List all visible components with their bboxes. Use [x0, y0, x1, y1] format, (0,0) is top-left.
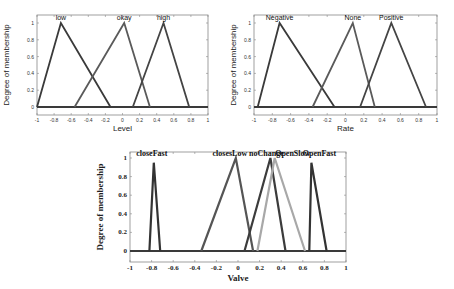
y-tick-label: 0.8 [27, 37, 34, 43]
x-tick-label: 0.4 [153, 117, 160, 123]
x-tick-label: 1 [436, 117, 439, 123]
mf-label: Positive [379, 14, 404, 21]
y-tick-label: 0.4 [118, 210, 127, 218]
y-tick-label: 0.8 [244, 37, 251, 43]
x-tick-label: 0.4 [379, 117, 386, 123]
y-tick-label: 0.4 [244, 70, 251, 76]
y-tick-label: 0.6 [244, 54, 251, 60]
x-tick-label: 0.2 [360, 117, 367, 123]
x-tick-label: -0.4 [189, 264, 201, 272]
x-tick-label: 0 [344, 117, 347, 123]
x-tick-label: 0.6 [170, 117, 177, 123]
mf-line-positive [360, 23, 426, 107]
x-tick-label: -0.2 [323, 117, 332, 123]
chart-rate: -1-0.8-0.6-0.4-0.200.20.40.60.8100.20.40… [229, 14, 439, 133]
x-tick-label: -0.6 [67, 117, 76, 123]
mf-label: okay [117, 14, 132, 22]
x-tick-label: 1 [207, 117, 210, 123]
mf-label: closeFast [136, 149, 167, 158]
chart-valve: -1-0.8-0.6-0.4-0.200.20.40.60.8100.20.40… [95, 149, 348, 283]
x-tick-label: -0.2 [211, 264, 223, 272]
y-tick-label: 0.8 [118, 173, 127, 181]
y-tick-label: 0.2 [27, 87, 34, 93]
y-tick-label: 1 [124, 154, 128, 162]
x-axis-label: Valve [227, 273, 248, 283]
x-tick-label: 1 [344, 264, 348, 272]
y-axis-label: Degree of membership [2, 24, 11, 106]
y-tick-label: 0.6 [27, 54, 34, 60]
x-tick-label: 0.8 [320, 264, 329, 272]
x-tick-label: 0.4 [277, 264, 286, 272]
x-tick-label: -0.2 [101, 117, 110, 123]
x-tick-label: -0.8 [268, 117, 277, 123]
x-tick-label: 0.8 [187, 117, 194, 123]
y-tick-label: 0 [248, 104, 251, 110]
x-tick-label: -0.8 [50, 117, 59, 123]
mf-label: closesLow [213, 149, 248, 158]
y-tick-label: 0.2 [118, 228, 127, 236]
y-tick-label: 0.4 [27, 70, 34, 76]
y-axis-label: Degree of membership [229, 24, 238, 106]
mf-line-closefast [149, 163, 160, 251]
x-tick-label: -1 [35, 117, 40, 123]
mf-label: low [56, 14, 67, 21]
mf-label: None [344, 14, 361, 21]
y-axis-label: Degree of membership [95, 164, 105, 251]
x-tick-label: -0.4 [84, 117, 93, 123]
mf-line-openslow [257, 158, 305, 251]
x-tick-label: 0 [121, 117, 124, 123]
x-tick-label: 0.6 [298, 264, 307, 272]
mf-label: OpenFast [303, 149, 337, 158]
y-tick-label: 1 [31, 20, 34, 26]
mf-line-high [133, 23, 189, 107]
x-tick-label: 0.2 [255, 264, 264, 272]
x-tick-label: -0.6 [286, 117, 295, 123]
x-axis-label: Level [113, 124, 132, 133]
mf-line-closeslow [201, 158, 253, 251]
x-tick-label: -0.8 [146, 264, 158, 272]
x-tick-label: 0 [236, 264, 240, 272]
x-tick-label: 0.2 [136, 117, 143, 123]
x-tick-label: -0.4 [305, 117, 314, 123]
x-tick-label: -0.6 [168, 264, 180, 272]
mf-label: Negative [266, 14, 294, 22]
membership-function-charts: -1-0.8-0.6-0.4-0.200.20.40.60.8100.20.40… [0, 0, 454, 289]
x-axis-label: Rate [337, 124, 354, 133]
chart-level: -1-0.8-0.6-0.4-0.200.20.40.60.8100.20.40… [2, 14, 210, 133]
plot-frame [37, 15, 208, 115]
y-tick-label: 0 [124, 247, 128, 255]
y-tick-label: 0.6 [118, 191, 127, 199]
x-tick-label: -1 [252, 117, 257, 123]
x-tick-label: 0.8 [415, 117, 422, 123]
y-tick-label: 1 [248, 20, 251, 26]
mf-line-negative [258, 23, 335, 107]
x-tick-label: 0.6 [397, 117, 404, 123]
mf-line-openfast [309, 163, 326, 251]
y-tick-label: 0 [31, 104, 34, 110]
y-tick-label: 0.2 [244, 87, 251, 93]
mf-label: high [157, 14, 170, 22]
x-tick-label: -1 [127, 264, 133, 272]
